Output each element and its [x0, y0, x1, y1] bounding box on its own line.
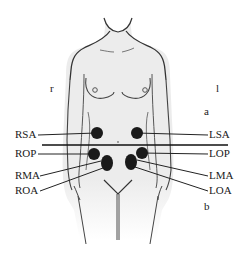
label-roa: ROA: [15, 185, 38, 196]
dot-lop: [136, 147, 148, 159]
right-side-label: r: [50, 83, 54, 94]
body-fill: [63, 20, 174, 240]
dot-rop: [88, 148, 100, 160]
label-lma: LMA: [209, 170, 233, 181]
panel-label-a: a: [204, 106, 209, 117]
label-rma: RMA: [15, 170, 40, 181]
label-rop: ROP: [15, 148, 36, 159]
navel: [117, 141, 119, 143]
panel-label-b: b: [204, 201, 210, 212]
label-loa: LOA: [209, 185, 232, 196]
left-side-label: l: [216, 83, 219, 94]
dot-lsa: [131, 127, 143, 139]
dot-rsa: [91, 127, 103, 139]
leg-midline: [117, 194, 119, 240]
label-lop: LOP: [209, 148, 230, 159]
fetal-position-diagram: r l a b RSA ROP RMA ROA LSA LOP LMA LOA: [0, 0, 244, 254]
dot-lma-loa: [125, 154, 137, 170]
dot-rma-roa: [101, 155, 113, 171]
label-rsa: RSA: [15, 129, 36, 140]
label-lsa: LSA: [209, 129, 230, 140]
torso-illustration: [0, 0, 244, 254]
